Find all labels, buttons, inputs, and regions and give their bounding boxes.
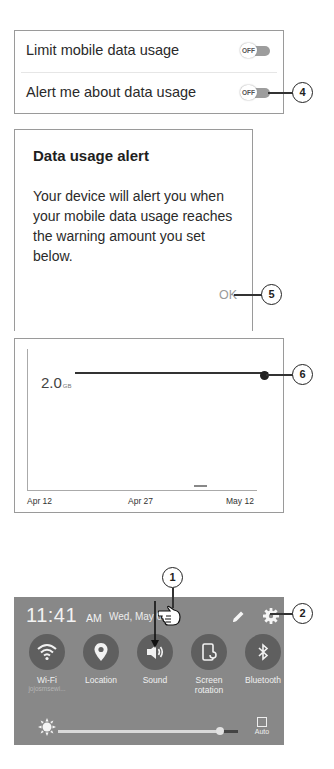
warning-limit-label: 2.0GB [41, 374, 72, 391]
x-tick-label: May 12 [226, 496, 254, 506]
pointing-hand-icon [158, 605, 182, 627]
quick-setting-location[interactable]: Location [73, 634, 129, 685]
data-usage-chart: 2.0GB Apr 12 Apr 27 May 12 [14, 338, 284, 513]
toggle-thumb: OFF [240, 43, 257, 58]
quick-setting-wifi[interactable]: Wi-Fi jojosmsewi... [19, 634, 75, 693]
clock-time: 11:41 [26, 604, 77, 627]
quick-setting-button[interactable] [191, 634, 227, 670]
warning-value: 2.0 [41, 374, 62, 391]
alert-data-usage-label: Alert me about data usage [26, 84, 196, 100]
brightness-slider[interactable] [58, 728, 248, 736]
data-usage-settings-card: Limit mobile data usage OFF Alert me abo… [14, 30, 284, 114]
warning-limit-line[interactable] [75, 372, 268, 374]
callout-leader [268, 92, 284, 94]
x-axis [27, 490, 257, 491]
limit-mobile-data-toggle[interactable]: OFF [240, 43, 270, 58]
screen-rotation-icon [199, 642, 219, 662]
quick-setting-label: Wi-Fi [19, 675, 75, 685]
data-usage-alert-dialog: Data usage alert Your device will alert … [14, 129, 253, 331]
y-axis [27, 349, 28, 491]
checkbox-box[interactable] [257, 717, 267, 727]
quick-setting-label: Bluetooth [235, 675, 291, 685]
quick-setting-label: Screen rotation [181, 675, 237, 695]
callout-leader [172, 588, 174, 608]
quick-setting-button[interactable] [29, 634, 65, 670]
slider-knob[interactable] [216, 727, 224, 735]
settings-button[interactable] [262, 607, 280, 625]
x-tick-label: Apr 12 [27, 496, 52, 506]
callout-6: 6 [292, 364, 313, 385]
slider-fill [58, 730, 218, 733]
quick-setting-screen-rotation[interactable]: Screen rotation [181, 634, 237, 695]
wifi-network-name: jojosmsewi... [19, 685, 75, 693]
auto-brightness-checkbox[interactable]: Auto [250, 717, 274, 735]
callout-leader [270, 613, 294, 615]
quick-setting-bluetooth[interactable]: Bluetooth [235, 634, 291, 685]
callout-leader [234, 294, 262, 296]
notification-panel: 11:41 AM Wed, May 6 [14, 597, 284, 745]
usage-line [194, 485, 207, 487]
warning-unit: GB [63, 383, 72, 389]
callout-1: 1 [162, 567, 183, 588]
callout-5: 5 [261, 284, 282, 305]
slider-track [222, 730, 238, 733]
limit-mobile-data-row[interactable]: Limit mobile data usage OFF [15, 31, 283, 72]
quick-setting-button[interactable] [245, 634, 281, 670]
quick-setting-label: Location [73, 675, 129, 685]
limit-mobile-data-label: Limit mobile data usage [26, 42, 179, 58]
edit-button[interactable] [230, 609, 246, 625]
gear-icon [262, 607, 280, 625]
location-icon [91, 642, 111, 662]
quick-setting-button[interactable] [83, 634, 119, 670]
brightness-icon [38, 718, 56, 740]
callout-2: 2 [292, 603, 313, 624]
toggle-thumb: OFF [240, 85, 257, 100]
pencil-icon [230, 609, 246, 625]
callout-4: 4 [292, 82, 313, 103]
bluetooth-icon [253, 642, 273, 662]
clock-ampm: AM [86, 612, 102, 624]
callout-leader [266, 374, 294, 376]
quick-setting-label: Sound [127, 675, 183, 685]
dialog-message: Your device will alert you when your mob… [33, 186, 245, 266]
x-tick-label: Apr 27 [128, 496, 153, 506]
dialog-title: Data usage alert [33, 147, 149, 164]
alert-data-usage-row[interactable]: Alert me about data usage OFF [15, 73, 283, 114]
auto-label: Auto [250, 728, 274, 735]
wifi-icon [37, 642, 57, 662]
alert-data-usage-toggle[interactable]: OFF [240, 85, 270, 100]
